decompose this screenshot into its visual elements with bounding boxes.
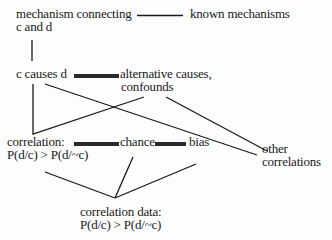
diagram-edges (0, 0, 332, 240)
node-other-correlations-line2: correlations (262, 155, 321, 168)
node-known-mechanisms: known mechanisms (190, 7, 290, 20)
node-mechanism: mechanism connecting c and d (16, 7, 132, 33)
node-chance: chance (120, 135, 155, 148)
node-c-causes-d-label: c causes d (16, 67, 67, 80)
node-bias: bias (189, 135, 209, 148)
node-correlation: correlation: P(d/c) > P(d/~c) (7, 135, 88, 161)
node-bias-label: bias (189, 135, 209, 148)
node-correlation-data: correlation data: P(d/c) > P(d/~c) (80, 205, 161, 231)
node-correlation-line2: P(d/c) > P(d/~c) (7, 148, 88, 161)
node-known-mechanisms-label: known mechanisms (190, 7, 290, 20)
edge-causes-alternative (74, 74, 119, 78)
edge-chance-bias (155, 142, 186, 146)
node-alternative-causes-line2: confounds (120, 80, 212, 93)
node-correlation-data-line2: P(d/c) > P(d/~c) (80, 218, 161, 231)
node-chance-label: chance (120, 135, 155, 148)
node-alternative-causes: alternative causes, confounds (120, 67, 212, 93)
edge-correlation-data (45, 172, 115, 198)
node-c-causes-d: c causes d (16, 67, 67, 80)
node-other-correlations: other correlations (262, 142, 321, 168)
causal-diagram: mechanism connecting c and d known mecha… (0, 0, 332, 240)
node-mechanism-line2: c and d (16, 20, 132, 33)
